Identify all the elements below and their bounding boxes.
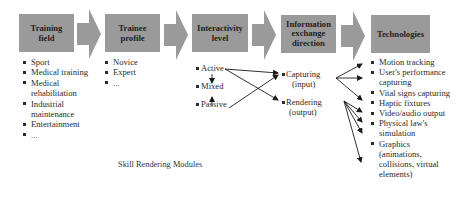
connector-arrows (0, 0, 476, 201)
diagram-caption: Skill Rendering Modules (118, 160, 202, 169)
